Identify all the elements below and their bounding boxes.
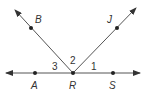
point-R (71, 71, 75, 75)
label-R: R (69, 80, 76, 91)
label-A: A (30, 80, 38, 91)
point-B (29, 26, 33, 30)
ray-RB (15, 10, 73, 73)
label-J: J (106, 14, 113, 25)
angle-label-2: 2 (70, 55, 76, 66)
point-A (33, 71, 37, 75)
label-S: S (109, 80, 116, 91)
ray-RJ (73, 8, 136, 73)
angle-label-3: 3 (52, 61, 58, 72)
angle-label-1: 1 (91, 61, 97, 72)
point-S (111, 71, 115, 75)
diagram-canvas: B J A R S 3 2 1 (0, 0, 147, 99)
label-B: B (35, 14, 42, 25)
point-J (115, 26, 119, 30)
angle-diagram: B J A R S 3 2 1 (0, 0, 147, 99)
